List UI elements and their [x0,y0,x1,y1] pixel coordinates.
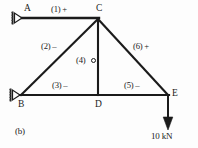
member-4-zero-force-marker [91,58,96,63]
node-label-e: E [172,88,178,98]
truss-figure: A C B D E (1) + (2) – (3) – (4) (5) – (6… [0,0,198,148]
member-label-3: (3) – [52,80,67,90]
member-label-1: (1) + [51,4,67,14]
truss-diagram-canvas [0,0,198,148]
member-label-4: (4) [76,55,85,65]
member-label-5: (5) – [124,80,139,90]
node-label-b: B [18,99,24,109]
member-label-2: (2) – [41,41,56,51]
load-arrow-icon [163,95,173,130]
member-label-6: (6) + [133,41,149,51]
support-a-icon [11,12,22,25]
figure-caption: (b) [15,126,25,136]
load-magnitude-label: 10 kN [151,131,172,141]
node-label-d: D [95,99,102,109]
node-label-c: C [96,3,102,13]
node-label-a: A [24,3,31,13]
